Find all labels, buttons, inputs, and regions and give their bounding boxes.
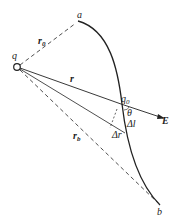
label-rb: rb: [73, 130, 81, 143]
label-e: E: [161, 115, 169, 126]
source-charge-circle: [14, 64, 21, 71]
rb-dashed-line: [20, 70, 158, 203]
label-delta-r: Δr: [111, 129, 122, 140]
label-b: b: [157, 206, 162, 217]
label-r0: r0: [38, 35, 46, 48]
r0-dashed-line: [20, 23, 76, 65]
label-delta-l: Δl: [126, 118, 136, 129]
label-r: r: [70, 73, 74, 84]
diagram-canvas: q a b q0 r0 r rb E θ Δl Δr: [0, 0, 178, 224]
label-a: a: [77, 9, 82, 20]
projection-dashed-line: [110, 109, 117, 128]
label-theta: θ: [127, 107, 132, 118]
label-q: q: [12, 50, 17, 61]
